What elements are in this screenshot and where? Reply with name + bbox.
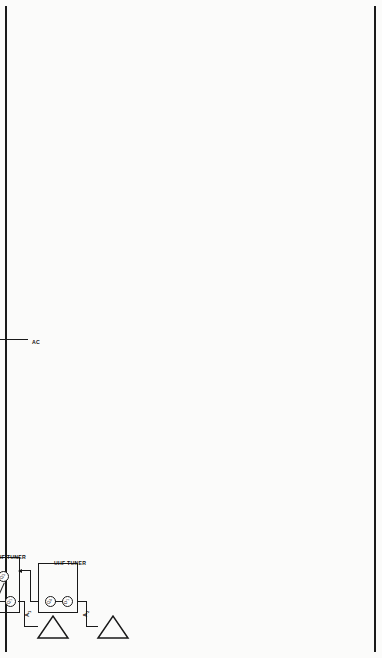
device-d1: D1 (62, 596, 73, 607)
vhf-antenna-icon (36, 614, 70, 640)
wire-uhf-ant-up (86, 626, 98, 627)
wire-uhf-out-right (30, 570, 31, 602)
wire-vhf-ant-up (24, 626, 38, 627)
label-vhf-tuner: VHF TUNER (0, 554, 26, 560)
device-q1: Q1 (5, 596, 16, 607)
label-uhf-tuner: UHF TUNER (54, 560, 86, 566)
label-ac-input: AC (32, 339, 40, 345)
wire-ac-in (0, 339, 28, 340)
wire-uhf-to-vhf (21, 570, 31, 571)
stage-id-a1: A1 (24, 611, 32, 617)
stage-id-a2: A2 (82, 611, 90, 617)
uhf-antenna-icon (96, 614, 130, 640)
wire-q1-q2 (0, 601, 6, 602)
schematic-canvas: A1 VHF TUNER Q1 Q2 Q3 A2 UHF TUNER D1 Q4 (0, 0, 382, 658)
arrow-uhf-to-vhf (18, 569, 22, 573)
wire-d1-q4 (55, 601, 63, 602)
wire-uhf-in (78, 601, 87, 602)
block-uhf-tuner[interactable] (38, 563, 78, 613)
diagram-page: A1 VHF TUNER Q1 Q2 Q3 A2 UHF TUNER D1 Q4 (0, 0, 382, 658)
